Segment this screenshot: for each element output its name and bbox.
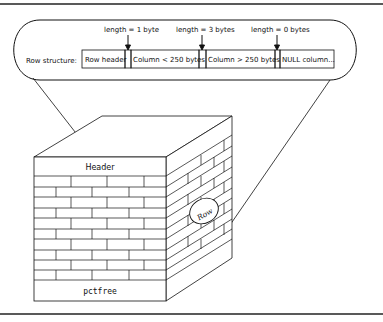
zoom-line-right [230,80,330,225]
diagram-canvas: Row structure: Row header Column < 250 b… [0,0,383,322]
row-structure-label: Row structure: [26,57,77,65]
block-pctfree-label: pctfree [83,287,117,296]
cell-column-gt-250: Column > 250 bytes [208,56,280,64]
length-label-2: length = 3 bytes [176,26,235,34]
cell-column-lt-250: Column < 250 bytes [133,56,205,64]
length-label-1: length = 1 byte [104,26,159,34]
cell-null-column: NULL column... [282,56,335,64]
length-label-3: length = 0 bytes [251,26,310,34]
block-header-label: Header [85,163,115,172]
cell-row-header: Row header [85,56,127,64]
